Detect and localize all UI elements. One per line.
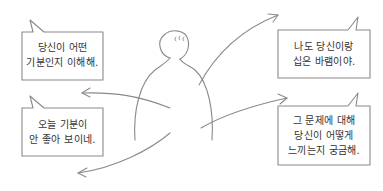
person-figure xyxy=(135,31,213,140)
illustration xyxy=(0,0,383,191)
bubble-text-bottom-left: 오늘 기분이 안 좋아 보이네. xyxy=(22,117,103,147)
person-body xyxy=(135,58,170,140)
bubble-text-top-left: 당신이 어떤 기분인지 이해해. xyxy=(22,40,103,70)
person-head xyxy=(160,31,189,59)
arrow-top-left xyxy=(82,93,170,108)
person-hair xyxy=(175,36,184,41)
arrow-top-right xyxy=(199,15,278,85)
bubble-text-top-right: 나도 당신이랑 십은 바램이야. xyxy=(278,39,370,69)
arrow-bottom-right xyxy=(201,98,287,128)
bubble-text-bottom-right: 그 문제에 대해 당신이 어떻게 느끼는지 궁금해. xyxy=(278,113,370,158)
